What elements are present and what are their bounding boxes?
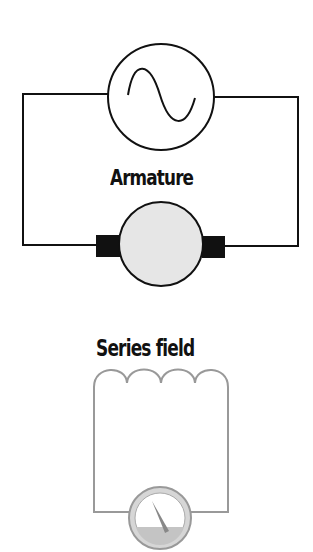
motor-circuit-diagram (0, 0, 313, 552)
series-field-label: Series field (96, 335, 194, 361)
ac-source-icon (108, 44, 214, 150)
armature-icon (96, 202, 225, 286)
armature-label: Armature (110, 165, 193, 190)
meter-gauge-icon (129, 487, 191, 549)
